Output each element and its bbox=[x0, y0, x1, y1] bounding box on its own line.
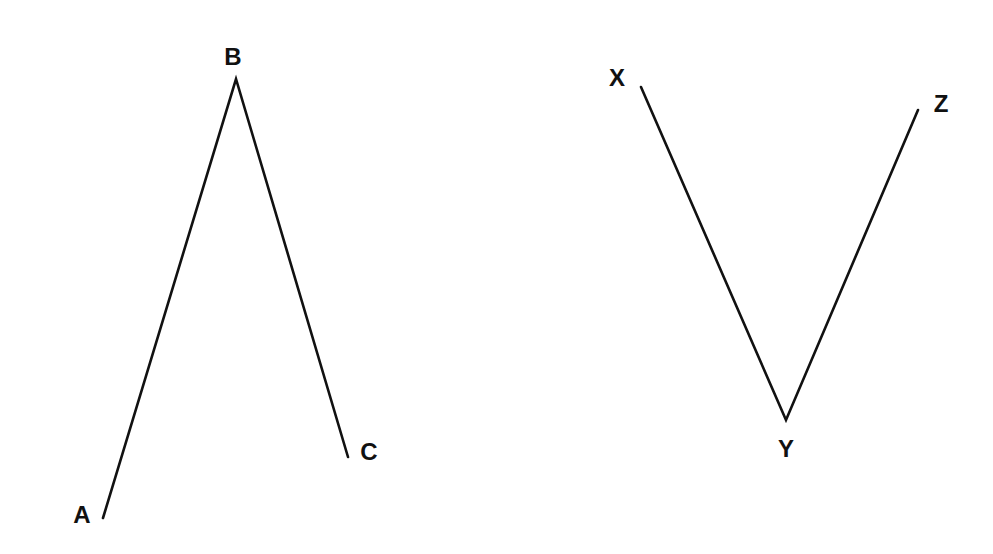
label-c: C bbox=[360, 438, 377, 465]
label-a: A bbox=[73, 501, 90, 528]
angle-xyz: X Y Z bbox=[609, 64, 948, 462]
label-b: B bbox=[224, 43, 241, 70]
label-x: X bbox=[609, 64, 625, 91]
label-y: Y bbox=[778, 435, 794, 462]
angle-abc-lines bbox=[103, 79, 348, 518]
angles-diagram: A B C X Y Z bbox=[0, 0, 993, 554]
diagram-canvas: A B C X Y Z bbox=[0, 0, 993, 554]
angle-abc: A B C bbox=[73, 43, 377, 528]
angle-xyz-lines bbox=[641, 87, 918, 420]
label-z: Z bbox=[934, 90, 949, 117]
